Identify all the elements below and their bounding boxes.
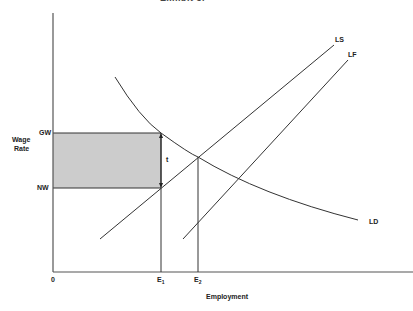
tax-wedge-label: t	[166, 156, 168, 163]
x-axis-label: Employment	[206, 293, 248, 300]
ylabel-line1: Wage	[12, 136, 30, 143]
gw-tick-label: GW	[39, 129, 51, 136]
nw-tick-label: NW	[37, 184, 49, 191]
ld-label: LD	[369, 218, 378, 225]
labor-market-diagram	[0, 0, 413, 311]
e2-subscript: 2	[199, 279, 202, 285]
e1-tick-label: E1	[157, 276, 164, 285]
tax-revenue-area	[53, 133, 161, 188]
e1-subscript: 1	[162, 279, 165, 285]
lf-label: LF	[348, 51, 357, 58]
e2-tick-label: E2	[194, 276, 201, 285]
origin-label: 0	[51, 276, 55, 283]
ls-label: LS	[335, 36, 344, 43]
ylabel-line2: Rate	[14, 145, 29, 152]
